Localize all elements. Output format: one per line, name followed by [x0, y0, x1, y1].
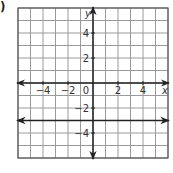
y-tick-label: −4 [74, 128, 89, 139]
x-axis-label: x [161, 85, 168, 96]
x-tick-label: 2 [115, 85, 121, 96]
y-tick-label: 2 [83, 53, 89, 64]
y-axis-label: y [84, 8, 92, 19]
x-tick-label: −2 [61, 85, 76, 96]
y-tick-label: 4 [83, 28, 89, 39]
x-tick-label: −4 [36, 85, 51, 96]
origin-label: 0 [83, 85, 89, 96]
x-tick-label: 4 [140, 85, 146, 96]
coordinate-graph: −4−22442−2−40xy [0, 0, 173, 173]
y-tick-label: −2 [74, 103, 89, 114]
